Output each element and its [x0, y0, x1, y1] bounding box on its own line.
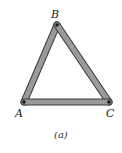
pin-c-icon: [107, 100, 111, 104]
label-b: B: [50, 8, 59, 21]
label-a: A: [14, 107, 23, 120]
member-ab-fill: [24, 25, 57, 102]
member-bc-fill: [57, 25, 109, 102]
truss-members: [24, 25, 109, 102]
pin-b-icon: [55, 23, 59, 27]
figure-caption: (a): [54, 129, 68, 140]
pin-a-icon: [22, 100, 26, 104]
truss-diagram: B A C (a): [0, 0, 122, 153]
label-c: C: [106, 107, 115, 120]
